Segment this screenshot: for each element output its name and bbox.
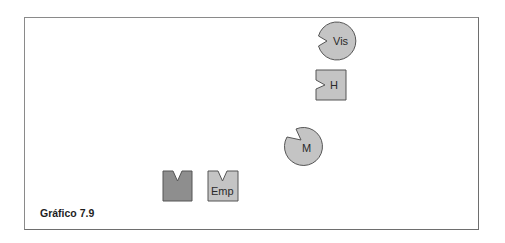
shape-emp: Emp bbox=[208, 171, 238, 201]
shape-m: M bbox=[284, 127, 322, 165]
shape-h-label: H bbox=[330, 79, 338, 91]
shape-dark-square bbox=[163, 171, 192, 201]
shape-h: H bbox=[316, 70, 346, 100]
figure-caption: Gráfico 7.9 bbox=[40, 207, 94, 219]
shape-m-label: M bbox=[302, 142, 311, 154]
shape-vis-label: Vis bbox=[333, 35, 349, 47]
shape-emp-label: Emp bbox=[211, 185, 234, 197]
shape-vis: Vis bbox=[319, 22, 356, 60]
